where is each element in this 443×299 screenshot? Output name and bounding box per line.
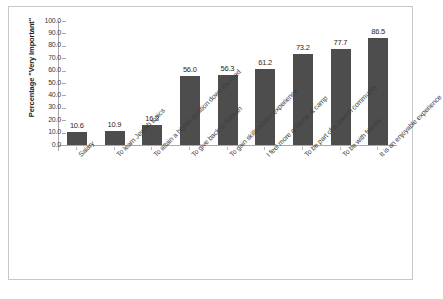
y-tick-label: 50.0 — [9, 79, 61, 86]
x-tick-mark — [189, 147, 190, 150]
x-tick-mark — [340, 147, 341, 150]
bar-value-label: 10.9 — [96, 120, 134, 129]
y-tick-label: 10.0 — [9, 128, 61, 135]
bar-slot: 10.9 — [96, 21, 134, 145]
x-axis-line — [58, 145, 397, 146]
x-category-slot: To gain skills and/or experience — [209, 147, 247, 151]
x-category-slot: It is an enjoyable experience — [359, 147, 397, 151]
x-category-slot: To give back to Ramah — [171, 147, 209, 151]
y-tick-label: 90.0 — [9, 29, 61, 36]
bar-value-label: 73.2 — [284, 43, 322, 52]
x-tick-mark — [377, 147, 378, 150]
y-tick-label: 60.0 — [9, 66, 61, 73]
y-tick-label: 100.0 — [9, 17, 61, 24]
plot-area: 0.010.020.030.040.050.060.070.080.090.01… — [9, 7, 414, 281]
x-category-slot: Salary — [58, 147, 96, 151]
x-category-slot: To attain a higher position down the roa… — [133, 147, 171, 151]
x-tick-mark — [302, 147, 303, 150]
y-tick-label: 30.0 — [9, 103, 61, 110]
y-tick-label: 70.0 — [9, 54, 61, 61]
x-tick-mark — [264, 147, 265, 150]
y-tick-label: 80.0 — [9, 41, 61, 48]
x-tick-mark — [76, 147, 77, 150]
x-category-slot: To learn Jewish topics — [96, 147, 134, 151]
bar[interactable] — [105, 131, 125, 145]
bar-slot: 77.7 — [322, 21, 360, 145]
y-tick-label: 20.0 — [9, 116, 61, 123]
y-tick-label: 40.0 — [9, 91, 61, 98]
x-tick-mark — [151, 147, 152, 150]
bar-value-label: 86.5 — [359, 27, 397, 36]
bar-slot: 61.2 — [246, 21, 284, 145]
bar-slot: 10.6 — [58, 21, 96, 145]
x-category-slot: To be part of a Jewish community — [284, 147, 322, 151]
y-tick-label: 0.0 — [9, 141, 61, 148]
x-tick-mark — [114, 147, 115, 150]
x-category-slot: To be with friends — [322, 147, 360, 151]
bar-value-label: 61.2 — [246, 58, 284, 67]
y-tick-mark — [62, 145, 66, 146]
bar-value-label: 10.6 — [58, 121, 96, 130]
x-category-slot: I feel more at home at camp — [246, 147, 284, 151]
bar-slot: 16.2 — [133, 21, 171, 145]
x-tick-mark — [227, 147, 228, 150]
x-axis-category-labels: SalaryTo learn Jewish topicsTo attain a … — [58, 147, 397, 277]
bar[interactable] — [67, 132, 87, 145]
chart-frame: Percentage "Very Important" 0.010.020.03… — [8, 6, 413, 280]
bar-slot: 86.5 — [359, 21, 397, 145]
bar-value-label: 56.0 — [171, 65, 209, 74]
bar-value-label: 77.7 — [322, 38, 360, 47]
